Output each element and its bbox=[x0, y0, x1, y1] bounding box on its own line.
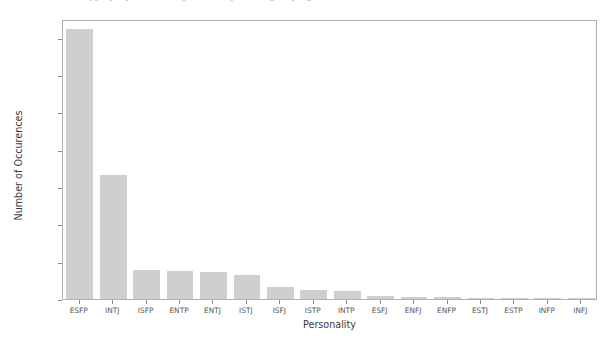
bar bbox=[434, 297, 461, 299]
x-tick-mark bbox=[380, 300, 381, 304]
bar bbox=[100, 175, 127, 299]
bar bbox=[367, 296, 394, 299]
bar bbox=[66, 29, 93, 299]
x-tick-mark bbox=[112, 300, 113, 304]
x-tick-mark bbox=[212, 300, 213, 304]
bar bbox=[267, 287, 294, 299]
bar-chart-figure: 020000400006000080000100000120000140000 … bbox=[0, 0, 610, 341]
x-tick-mark bbox=[580, 300, 581, 304]
y-axis: 020000400006000080000100000120000140000 bbox=[0, 0, 62, 341]
x-axis: ESFPINTJISFPENTPENTJISTJISFJISTPINTPESFJ… bbox=[62, 300, 597, 320]
bar bbox=[501, 298, 528, 299]
bar bbox=[334, 291, 361, 299]
x-tick-mark bbox=[513, 300, 514, 304]
x-tick-mark bbox=[146, 300, 147, 304]
x-tick-mark bbox=[447, 300, 448, 304]
y-axis-title: Number of Occurences bbox=[13, 66, 24, 266]
x-tick-mark bbox=[413, 300, 414, 304]
x-tick-mark bbox=[480, 300, 481, 304]
x-tick-mark bbox=[346, 300, 347, 304]
bar bbox=[133, 270, 160, 299]
bar bbox=[200, 272, 227, 299]
bar-series bbox=[63, 21, 596, 299]
x-tick-mark bbox=[313, 300, 314, 304]
bar bbox=[401, 297, 428, 299]
plot-area bbox=[62, 20, 597, 300]
bar bbox=[167, 271, 194, 299]
x-tick-label: INFJ bbox=[550, 306, 610, 315]
x-axis-title: Personality bbox=[62, 319, 597, 330]
bar bbox=[568, 298, 595, 299]
x-tick-mark bbox=[79, 300, 80, 304]
x-tick-mark bbox=[279, 300, 280, 304]
x-tick-mark bbox=[246, 300, 247, 304]
bar bbox=[468, 298, 495, 299]
bar bbox=[300, 290, 327, 299]
bar bbox=[534, 298, 561, 299]
x-tick-mark bbox=[547, 300, 548, 304]
x-tick-mark bbox=[179, 300, 180, 304]
bar bbox=[234, 275, 261, 299]
